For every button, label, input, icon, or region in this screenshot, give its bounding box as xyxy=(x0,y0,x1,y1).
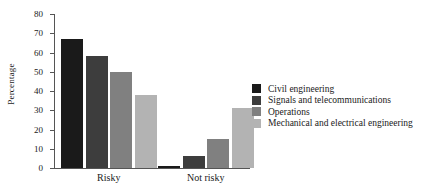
legend-item-label: Operations xyxy=(268,107,310,117)
bar xyxy=(86,56,108,168)
y-axis-tick-label: 60 xyxy=(34,48,43,58)
bar xyxy=(232,108,254,168)
y-axis-tick: 0 xyxy=(50,168,55,169)
y-axis-tick-label: 50 xyxy=(34,67,43,77)
legend-item: Operations xyxy=(252,106,413,118)
y-axis-label-text: Percentage xyxy=(6,63,16,104)
y-axis-tick-label: 70 xyxy=(34,28,43,38)
bar xyxy=(61,39,83,168)
x-axis-category-label: Risky xyxy=(97,172,120,183)
y-axis-label: Percentage xyxy=(2,0,20,168)
legend-color-swatch xyxy=(252,84,261,93)
bar xyxy=(135,95,157,168)
legend-item: Signals and telecommunications xyxy=(252,95,413,107)
y-axis-tick-label: 20 xyxy=(34,125,43,135)
x-axis-line xyxy=(54,168,250,169)
bar xyxy=(183,156,205,168)
y-axis-tick-label: 10 xyxy=(34,144,43,154)
bar xyxy=(158,166,180,168)
chart-figure: Percentage 01020304050607080 RiskyNot ri… xyxy=(0,0,435,193)
y-axis-tick-label: 0 xyxy=(39,163,44,173)
legend-color-swatch xyxy=(252,96,261,105)
x-axis-category-label: Not risky xyxy=(187,172,225,183)
legend-item-label: Mechanical and electrical engineering xyxy=(268,118,413,128)
bar-group-container xyxy=(55,14,240,168)
y-axis-tick-label: 30 xyxy=(34,105,43,115)
legend-color-swatch xyxy=(252,119,261,128)
legend-color-swatch xyxy=(252,107,261,116)
bar xyxy=(207,139,229,168)
legend: Civil engineeringSignals and telecommuni… xyxy=(252,83,413,129)
plot-area: 01020304050607080 RiskyNot risky xyxy=(55,14,240,168)
legend-item: Civil engineering xyxy=(252,83,413,95)
legend-item-label: Civil engineering xyxy=(268,84,334,94)
legend-item-label: Signals and telecommunications xyxy=(268,95,391,105)
legend-item: Mechanical and electrical engineering xyxy=(252,118,413,130)
y-axis-tick-label: 40 xyxy=(34,86,43,96)
y-axis-tick-label: 80 xyxy=(34,9,43,19)
bar xyxy=(110,72,132,168)
